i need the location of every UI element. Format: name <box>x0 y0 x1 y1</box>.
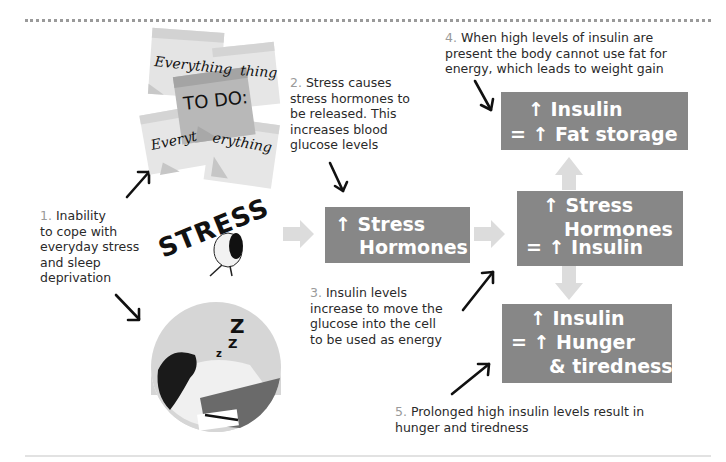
pointer-arrow-to-sleep <box>116 295 139 320</box>
step-1-line: everyday stress <box>40 239 139 255</box>
box-stress-hormones-insulin: ↑ Stress Hormones = ↑ Insulin <box>517 191 683 266</box>
sticky-notes-illustration: Everything thing TO DO: Everyt erything <box>139 28 280 189</box>
flow-arrow-up <box>555 157 583 190</box>
flow-arrow-down <box>555 266 583 300</box>
step-1-line: to cope with <box>40 224 139 240</box>
step-2-line: stress hormones to <box>290 91 410 107</box>
box-line: ↑ Insulin <box>530 307 625 329</box>
step-2-note: 2. Stress causes stress hormones to be r… <box>290 75 410 153</box>
step-4-note: 4. When high levels of insulin are prese… <box>445 30 667 77</box>
step-5-number: 5. <box>395 404 407 419</box>
box-line: Hormones <box>359 236 468 258</box>
step-3-line: to be used as energy <box>310 332 443 348</box>
step-3-number: 3. <box>310 285 322 300</box>
step-5-note: 5. Prolonged high insulin levels result … <box>395 404 644 435</box>
step-2-line: glucose levels <box>290 137 410 153</box>
step-4-line: energy, which leads to weight gain <box>445 61 667 77</box>
step-1-line: Inability <box>56 208 106 223</box>
stress-figure-illustration: STRESS <box>154 192 273 276</box>
box-line: ↑ Insulin <box>528 98 623 120</box>
box-line: ↑ Stress <box>543 194 633 216</box>
zzz-large: Z <box>230 314 245 338</box>
box-line: = ↑ Hunger <box>511 331 635 353</box>
step-3-line: increase to move the <box>310 301 443 317</box>
flow-arrow-right-2 <box>474 220 505 248</box>
step-3-line: glucose into the cell <box>310 316 443 332</box>
box-fat-storage: ↑ Insulin = ↑ Fat storage <box>501 92 688 150</box>
note-text-2: thing <box>240 62 278 81</box>
pointer-arrow-step3 <box>463 272 493 310</box>
step-2-number: 2. <box>290 75 302 90</box>
step-2-line: Stress causes <box>306 75 392 90</box>
pointer-arrow-step4 <box>475 81 493 110</box>
step-3-note: 3. Insulin levels increase to move the g… <box>310 285 443 347</box>
zzz-medium: Z <box>228 336 237 351</box>
flow-arrow-right-1 <box>283 220 314 248</box>
step-5-line: Prolonged high insulin levels result in <box>411 404 644 419</box>
box-line: ↑ Stress <box>335 213 425 235</box>
step-4-line: When high levels of insulin are <box>461 30 653 45</box>
zzz-small: z <box>216 348 222 359</box>
pointer-arrow-step2 <box>330 163 347 191</box>
pointer-arrow-step5 <box>452 364 489 394</box>
step-1-line: and sleep <box>40 255 139 271</box>
box-stress-hormones: ↑ Stress Hormones <box>325 207 470 263</box>
step-4-line: present the body cannot use fat for <box>445 46 667 62</box>
pointer-arrow-to-todo <box>127 172 149 197</box>
step-5-line: hunger and tiredness <box>395 420 644 436</box>
step-3-line: Insulin levels <box>326 285 407 300</box>
box-hunger-tiredness: ↑ Insulin = ↑ Hunger & tiredness <box>502 304 672 383</box>
stress-word: STRESS <box>154 192 273 263</box>
box-line: = ↑ Fat storage <box>510 123 678 145</box>
sleeping-person-illustration: Z Z z <box>151 302 281 432</box>
step-1-line: deprivation <box>40 270 139 286</box>
step-4-number: 4. <box>445 30 457 45</box>
step-2-line: increases blood <box>290 122 410 138</box>
box-line: = ↑ Insulin <box>526 236 643 258</box>
step-2-line: be released. This <box>290 106 410 122</box>
step-1-number: 1. <box>40 208 52 223</box>
step-1-note: 1. Inability to cope with everyday stres… <box>40 208 139 286</box>
box-line: & tiredness <box>549 355 673 377</box>
